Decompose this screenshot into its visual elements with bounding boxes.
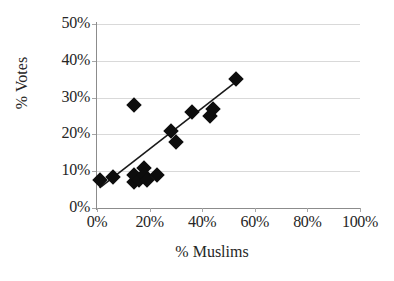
y-tick-label-40: 40%	[62, 51, 90, 69]
x-tick-20	[150, 208, 151, 212]
y-tick-20	[92, 134, 96, 135]
x-axis-tick-labels: 0%20%40%60%80%100%	[0, 213, 394, 237]
x-axis-title-text: % Muslims	[145, 243, 248, 260]
x-tick-label-20: 20%	[135, 213, 163, 231]
y-axis-tick-labels: 0%10%20%30%40%50%	[44, 0, 90, 281]
x-tick-label-0: 0%	[87, 213, 108, 231]
y-tick-label-30: 30%	[62, 88, 90, 106]
y-tick-40	[92, 61, 96, 62]
x-tick-40	[202, 208, 203, 212]
x-tick-60	[255, 208, 256, 212]
gridline-y-20	[97, 134, 360, 135]
gridline-y-30	[97, 98, 360, 99]
y-tick-10	[92, 171, 96, 172]
gridline-y-40	[97, 61, 360, 62]
y-tick-label-10: 10%	[62, 161, 90, 179]
x-tick-0	[97, 208, 98, 212]
x-axis-title: % Muslims	[0, 243, 394, 261]
y-tick-30	[92, 98, 96, 99]
scatter-chart: 0%10%20%30%40%50% 0%20%40%60%80%100% % M…	[0, 0, 394, 281]
y-tick-0	[92, 208, 96, 209]
x-tick-label-80: 80%	[293, 213, 321, 231]
x-tick-label-40: 40%	[188, 213, 216, 231]
y-tick-label-20: 20%	[62, 124, 90, 142]
x-axis-line	[96, 208, 361, 209]
y-tick-50	[92, 24, 96, 25]
x-tick-label-100: 100%	[342, 213, 378, 231]
x-tick-80	[307, 208, 308, 212]
y-tick-label-50: 50%	[62, 14, 90, 32]
gridline-y-50	[97, 24, 360, 25]
y-axis-title: % Votes	[13, 3, 31, 163]
x-tick-100	[360, 208, 361, 212]
x-tick-label-60: 60%	[241, 213, 269, 231]
